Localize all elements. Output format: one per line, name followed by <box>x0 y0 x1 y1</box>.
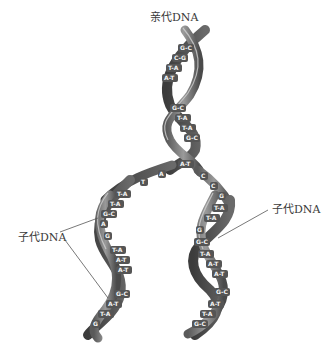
svg-text:T-A: T-A <box>177 114 188 121</box>
svg-text:T-A: T-A <box>117 190 128 197</box>
base-pair: G-C <box>178 44 194 52</box>
base-pair: T-A <box>98 310 114 318</box>
svg-text:A-T: A-T <box>214 270 225 277</box>
svg-text:A: A <box>159 170 164 177</box>
svg-text:A-T: A-T <box>164 74 175 81</box>
base-pair: A-T <box>114 256 130 264</box>
svg-text:G-C: G-C <box>116 290 128 297</box>
base-pair: T-A <box>198 250 214 258</box>
base: T <box>140 178 148 186</box>
svg-text:T-A: T-A <box>200 250 211 257</box>
base-pair: T-A <box>200 310 216 318</box>
base-pair: A-T <box>212 270 228 278</box>
leader-line-left-upper <box>60 218 98 232</box>
base-pair: C-G <box>172 54 188 62</box>
base-pair: G-C <box>101 210 117 218</box>
svg-text:G-C: G-C <box>103 210 115 217</box>
svg-text:T-A: T-A <box>214 204 225 211</box>
svg-text:C-G: C-G <box>174 54 186 61</box>
base-pair: A-T <box>178 160 194 168</box>
svg-text:A-T: A-T <box>208 260 219 267</box>
leader-lines <box>60 210 268 298</box>
svg-text:G-C: G-C <box>172 104 184 111</box>
base: C <box>200 172 208 180</box>
svg-text:G: G <box>93 320 98 327</box>
dna-replication-diagram: G-C C-G T-A A-T G-C T-A T-A G-C A-T A T … <box>0 0 325 343</box>
base-pair: A-T <box>116 266 132 274</box>
svg-text:A-T: A-T <box>108 300 119 307</box>
base-pair: G-C <box>214 288 230 296</box>
svg-text:T-A: T-A <box>206 214 217 221</box>
svg-text:T-A: T-A <box>168 64 179 71</box>
base: A <box>158 170 166 178</box>
base-pair: G-C <box>192 320 208 328</box>
base: C <box>210 182 218 190</box>
svg-text:G-C: G-C <box>186 134 198 141</box>
base: G <box>196 226 204 234</box>
base: G <box>104 232 112 240</box>
svg-text:C: C <box>201 172 206 179</box>
svg-text:T-A: T-A <box>182 124 193 131</box>
base-pair: T-A <box>175 114 191 122</box>
base-pair: G-C <box>170 104 186 112</box>
svg-text:T-A: T-A <box>100 310 111 317</box>
base-pair: T-A <box>204 214 220 222</box>
base-pair: T-A <box>115 190 131 198</box>
svg-text:G: G <box>219 192 224 199</box>
base-pair: G-C <box>114 290 130 298</box>
base-pair: A-T <box>208 300 224 308</box>
svg-text:A-T: A-T <box>180 160 191 167</box>
base-pair: T-A <box>180 124 196 132</box>
svg-text:G-C: G-C <box>194 320 206 327</box>
base-pair: T-A <box>166 64 182 72</box>
svg-text:G: G <box>105 232 110 239</box>
base-pair: A-T <box>162 74 178 82</box>
svg-text:T-A: T-A <box>110 200 121 207</box>
svg-text:C: C <box>211 182 216 189</box>
base-pair: A-T <box>106 300 122 308</box>
svg-text:A: A <box>101 220 106 227</box>
base-pair: T-A <box>212 204 228 212</box>
base: G <box>92 320 100 328</box>
svg-text:T-A: T-A <box>112 246 123 253</box>
svg-text:G-C: G-C <box>216 288 228 295</box>
base-pair: G-C <box>184 134 200 142</box>
svg-text:A-T: A-T <box>210 300 221 307</box>
base-pair: T-A <box>110 246 126 254</box>
base-pair: T-A <box>108 200 124 208</box>
svg-text:A-T: A-T <box>118 266 129 273</box>
base: A <box>100 220 108 228</box>
base-pair: A-T <box>206 260 222 268</box>
svg-text:G: G <box>197 226 202 233</box>
svg-text:G-C: G-C <box>196 238 208 245</box>
svg-text:T-A: T-A <box>202 310 213 317</box>
svg-text:A-T: A-T <box>116 256 127 263</box>
svg-text:G-C: G-C <box>180 44 192 51</box>
base-pair: G-C <box>194 238 210 246</box>
